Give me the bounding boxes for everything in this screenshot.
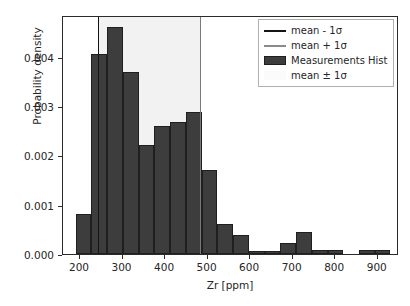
x-tick-mark [164, 255, 165, 259]
x-tick-label: 500 [197, 261, 217, 273]
x-tick-mark [122, 255, 123, 259]
y-tick-mark [58, 206, 62, 207]
y-tick-mark [58, 255, 62, 256]
legend-line-swatch [264, 30, 286, 32]
x-axis-label: Zr [ppm] [62, 279, 398, 291]
x-tick-label: 700 [282, 261, 302, 273]
legend-entry-label: mean ± 1σ [291, 70, 347, 82]
legend-entry[interactable]: mean - 1σ [264, 24, 387, 37]
y-tick-mark [58, 107, 62, 108]
legend-entry-label: mean - 1σ [291, 25, 342, 37]
legend-patch-swatch [264, 71, 286, 80]
x-tick-label: 300 [112, 261, 132, 273]
x-tick-label: 400 [154, 261, 174, 273]
legend-entry[interactable]: mean ± 1σ [264, 69, 387, 82]
legend-key-patch [264, 55, 286, 66]
x-tick-mark [249, 255, 250, 259]
legend-patch-swatch [264, 56, 286, 65]
x-tick-label: 600 [239, 261, 259, 273]
legend-key-line [264, 40, 286, 51]
mean-plus-sigma-line [200, 17, 202, 254]
x-tick-mark [292, 255, 293, 259]
y-tick-label: 0.000 [24, 249, 54, 261]
legend-entry-label: mean + 1σ [291, 40, 347, 52]
mean-minus-sigma-line [98, 17, 100, 254]
legend-entry[interactable]: mean + 1σ [264, 39, 387, 52]
legend-entry-label: Measurements Hist [291, 55, 387, 67]
y-tick-label: 0.001 [24, 200, 54, 212]
x-tick-mark [79, 255, 80, 259]
legend-entry[interactable]: Measurements Hist [264, 54, 387, 67]
x-tick-label: 200 [69, 261, 89, 273]
y-tick-mark [58, 156, 62, 157]
x-tick-mark [207, 255, 208, 259]
x-tick-label: 800 [324, 261, 344, 273]
histogram-figure: 200300400500600700800900 0.0000.0010.002… [0, 0, 410, 306]
x-tick-label: 900 [367, 261, 387, 273]
x-tick-mark [377, 255, 378, 259]
x-tick-mark [334, 255, 335, 259]
legend-key-patch [264, 70, 286, 81]
chart-legend: mean - 1σmean + 1σMeasurements Histmean … [258, 19, 394, 87]
legend-line-swatch [264, 45, 286, 47]
y-tick-mark [58, 58, 62, 59]
y-axis-label: Probability density [31, 0, 43, 166]
legend-key-line [264, 25, 286, 36]
